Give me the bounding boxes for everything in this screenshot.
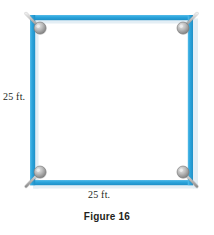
- frame-bar-bottom: [30, 180, 193, 185]
- square-frame: [30, 15, 193, 185]
- frame-bar-right: [188, 15, 193, 185]
- figure-caption: Figure 16: [0, 211, 214, 222]
- frame-bar-left: [30, 15, 35, 185]
- frame-bar-top: [30, 15, 193, 20]
- bottom-dimension-label: 25 ft.: [88, 189, 110, 200]
- left-dimension-label: 25 ft.: [3, 91, 25, 102]
- frame-shadow-group: [33, 19, 198, 189]
- figure-container: 25 ft. 25 ft. Figure 16: [0, 0, 214, 235]
